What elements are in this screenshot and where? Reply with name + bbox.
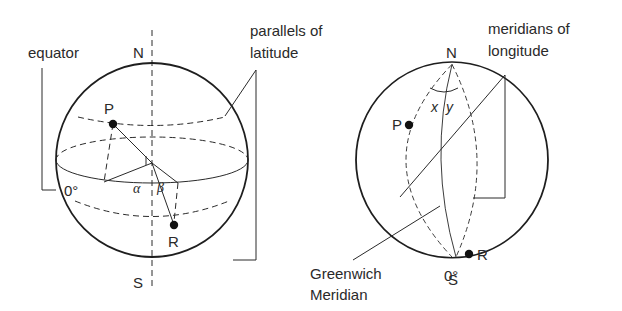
parallels-label-line1: parallels of bbox=[250, 22, 323, 39]
right-globe: N S meridians of longitude Greenwich Mer… bbox=[310, 20, 571, 303]
r-projection bbox=[174, 183, 178, 222]
angle-arc bbox=[430, 88, 458, 92]
angle-x-label: x bbox=[430, 99, 439, 115]
zero-degrees-label: 0° bbox=[64, 182, 78, 199]
point-p-label: P bbox=[392, 116, 402, 133]
point-p bbox=[405, 121, 413, 129]
parallels-label-line2: latitude bbox=[250, 44, 298, 61]
meridians-label-line2: longitude bbox=[488, 42, 549, 59]
meridians-label-line1: meridians of bbox=[488, 20, 571, 37]
point-r bbox=[170, 221, 178, 229]
zero-degrees-label: 0° bbox=[444, 267, 458, 284]
meridian-right bbox=[452, 64, 477, 257]
point-r-label: R bbox=[168, 233, 179, 250]
greenwich-meridian bbox=[441, 64, 456, 257]
sphere-outline bbox=[356, 62, 548, 258]
angle-y-label: y bbox=[445, 99, 454, 115]
greenwich-label-line1: Greenwich bbox=[310, 265, 382, 282]
beta-label: β bbox=[156, 180, 164, 195]
parallels-leader bbox=[225, 70, 256, 260]
equator-label: equator bbox=[28, 44, 79, 61]
greenwich-label-line2: Meridian bbox=[310, 286, 368, 303]
left-globe: equator N S parallels of latitude 0° P R… bbox=[28, 22, 323, 291]
north-label: N bbox=[133, 44, 144, 61]
equator-leader bbox=[42, 68, 56, 190]
south-label: S bbox=[133, 274, 143, 291]
alpha-label: α bbox=[133, 181, 141, 196]
globe-diagram: equator N S parallels of latitude 0° P R… bbox=[0, 0, 622, 311]
point-p-label: P bbox=[104, 100, 114, 117]
p-equator-radius bbox=[104, 163, 152, 182]
north-label: N bbox=[446, 44, 457, 61]
point-p bbox=[109, 120, 117, 128]
meridian-left bbox=[406, 64, 452, 257]
greenwich-leader bbox=[353, 206, 440, 260]
point-r bbox=[465, 250, 473, 258]
point-r-label: R bbox=[477, 246, 488, 263]
meridians-leader bbox=[400, 75, 505, 198]
p-projection bbox=[104, 124, 113, 182]
